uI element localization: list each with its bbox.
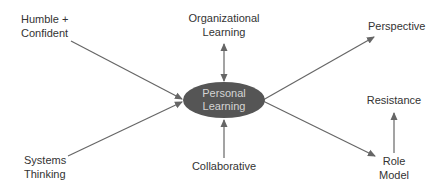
arrow-humble-to-personal (71, 41, 182, 99)
node-perspective: Perspective (368, 20, 425, 34)
arrow-personal-to-perspective (263, 37, 374, 100)
arrow-systems-to-personal (68, 102, 182, 156)
center-node-line1: Personal (202, 87, 245, 101)
node-resistance-line1: Resistance (364, 94, 424, 108)
arrow-personal-to-role-model (263, 101, 375, 156)
node-role-model-line2: Model (374, 169, 414, 183)
node-systems-line1: Systems (24, 154, 66, 168)
node-systems-thinking: Systems Thinking (24, 154, 66, 181)
node-resistance: Resistance (364, 94, 424, 108)
node-perspective-line1: Perspective (368, 20, 425, 34)
node-organizational-learning: Organizational Learning (184, 12, 264, 39)
node-humble-confident: Humble + Confident (21, 13, 68, 40)
node-organizational-line2: Learning (184, 26, 264, 40)
center-node-personal-learning: Personal Learning (183, 82, 265, 118)
node-humble-line2: Confident (21, 27, 68, 41)
node-systems-line2: Thinking (24, 168, 66, 182)
node-role-model: Role Model (374, 155, 414, 182)
node-collaborative: Collaborative (184, 160, 264, 174)
node-role-model-line1: Role (374, 155, 414, 169)
node-humble-line1: Humble + (21, 13, 68, 27)
center-node-line2: Learning (203, 100, 246, 114)
node-organizational-line1: Organizational (184, 12, 264, 26)
node-collaborative-line1: Collaborative (184, 160, 264, 174)
